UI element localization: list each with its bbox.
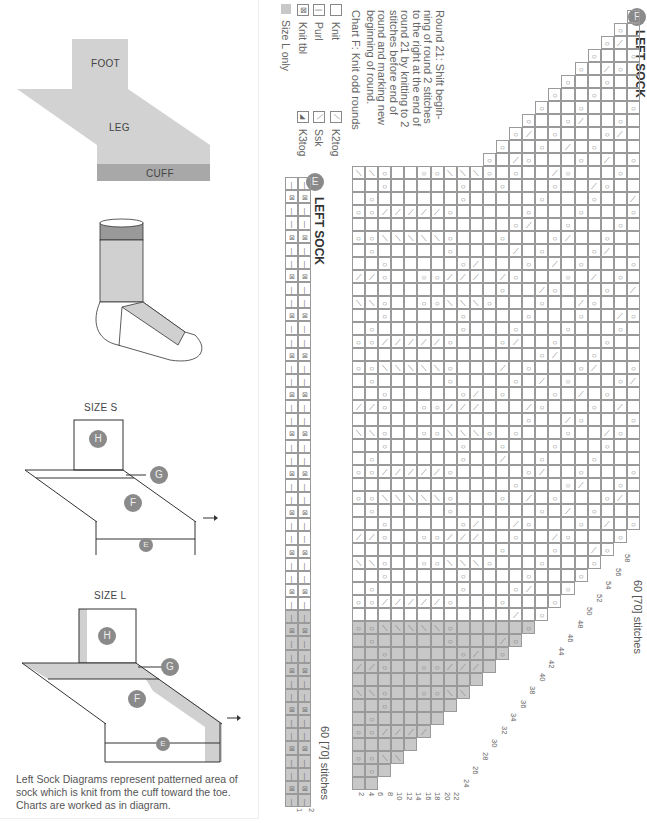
chart-f-cell: ⟋ xyxy=(404,335,417,348)
chart-f-cell: ○ xyxy=(444,374,457,387)
chart-e-cell: | xyxy=(285,335,298,348)
chart-f-cell xyxy=(365,179,378,192)
chart-f-cell xyxy=(444,439,457,452)
chart-f-cell: ○ xyxy=(457,192,470,205)
chart-f-cell: ⟋ xyxy=(588,270,601,283)
chart-f-cell xyxy=(470,283,483,296)
legend-k2tog: K2tog xyxy=(330,129,343,156)
chart-f-cell xyxy=(483,595,496,608)
chart-f-cell: ○ xyxy=(509,270,522,283)
chart-f-cell xyxy=(535,114,548,127)
chart-f-cell xyxy=(470,673,483,686)
chart-f-cell xyxy=(509,140,522,153)
chart-f-cell xyxy=(627,23,640,36)
chart-f-cell xyxy=(561,387,574,400)
chart-f-cell xyxy=(548,101,561,114)
chart-f-cell xyxy=(588,439,601,452)
chart-f-cell xyxy=(404,296,417,309)
chart-f-cell: ⟋ xyxy=(588,361,601,374)
chart-f-cell xyxy=(588,231,601,244)
chart-f-cell: ○ xyxy=(588,140,601,153)
chart-f-cell: ○ xyxy=(444,504,457,517)
chart-f-cell: ⟋ xyxy=(431,205,444,218)
chart-f-cell xyxy=(496,569,509,582)
chart-f-cell xyxy=(496,374,509,387)
chart-f-cell: ○ xyxy=(457,309,470,322)
chart-f-cell xyxy=(548,140,561,153)
chart-f-cell xyxy=(378,504,391,517)
chart-f-cell: ⟍ xyxy=(391,491,404,504)
chart-f-cell xyxy=(522,478,535,491)
size-l-swatch-icon xyxy=(281,4,291,14)
chart-f-cell xyxy=(483,621,496,634)
chart-f-cell: ⟋ xyxy=(575,478,588,491)
chart-f-cell xyxy=(444,517,457,530)
chart-e-cell: | xyxy=(285,400,298,413)
chart-f-cell xyxy=(588,127,601,140)
chart-f-cell xyxy=(601,530,614,543)
chart-f-cell: ○ xyxy=(509,218,522,231)
chart-f-cell xyxy=(535,257,548,270)
chart-e-cell: ⊠ xyxy=(298,781,311,794)
chart-f-cell: ○ xyxy=(378,530,391,543)
chart-f-cell xyxy=(561,257,574,270)
chart-f-cell xyxy=(627,439,640,452)
legend-knit-tbl: Knit tbl xyxy=(297,22,310,54)
chart-f-cell xyxy=(483,647,496,660)
legend-k3tog: K3tog xyxy=(297,129,310,156)
chart-f-row-number: 46 xyxy=(566,634,575,642)
chart-f-cell xyxy=(575,127,588,140)
chart-f-cell: ⟋ xyxy=(575,387,588,400)
chart-f-cell: ○ xyxy=(378,257,391,270)
chart-f-cell xyxy=(561,127,574,140)
chart-f-cell: ⟍ xyxy=(457,426,470,439)
chart-f-cell: ⟋ xyxy=(614,36,627,49)
chart-f-cell xyxy=(561,335,574,348)
chart-f-cell xyxy=(561,400,574,413)
chart-f-row-number: 22 xyxy=(452,792,461,800)
legend: Knit |Purl ⊠Knit tbl Size L only ⟋K2tog … xyxy=(280,4,342,156)
chart-e-cell: | xyxy=(285,715,298,728)
chart-f-cell xyxy=(522,322,535,335)
purl-swatch-icon: | xyxy=(313,4,325,16)
chart-f-cell: ○ xyxy=(352,465,365,478)
chart-f-cell: ⟋ xyxy=(417,335,430,348)
chart-f-cell xyxy=(588,387,601,400)
chart-f-cell xyxy=(391,530,404,543)
chart-f-cell xyxy=(548,465,561,478)
chart-f-cell: ⟋ xyxy=(496,361,509,374)
chart-f-cell: ○ xyxy=(352,621,365,634)
chart-f-row-number: 38 xyxy=(528,686,537,694)
chart-f-cell: ○ xyxy=(457,569,470,582)
chart-f-cell: ○ xyxy=(614,62,627,75)
leg-label: LEG xyxy=(109,122,130,133)
chart-e-cell: ⊠ xyxy=(285,781,298,794)
chart-f-row-number: 12 xyxy=(405,792,414,800)
chart-f-cell xyxy=(575,374,588,387)
chart-f-cell xyxy=(561,205,574,218)
chart-f-cell xyxy=(601,361,614,374)
chart-f-cell xyxy=(431,634,444,647)
chart-f-cell: ○ xyxy=(548,127,561,140)
chart-f-cell: ○ xyxy=(614,426,627,439)
chart-e-cell: ⊠ xyxy=(298,308,311,321)
chart-f-cell: ⟋ xyxy=(365,270,378,283)
chart-f-grid: ⟍○○⟋⟍○○⟋⟍○○⟋⟍○○⟋⟍○○⟍○○○○⟋⟍○○○○⟋⟍○○○○⟋⟍○○… xyxy=(352,10,640,790)
chart-f-cell xyxy=(483,400,496,413)
chart-f-cell xyxy=(601,218,614,231)
chart-e-cell: ⊠ xyxy=(285,584,298,597)
chart-f-cell xyxy=(417,569,430,582)
chart-f-cell xyxy=(417,348,430,361)
chart-f-cell xyxy=(535,439,548,452)
chart-f-cell: ⟍ xyxy=(391,621,404,634)
chart-e-cell: | xyxy=(285,755,298,768)
chart-f-cell xyxy=(378,283,391,296)
chart-e-cell: | xyxy=(285,440,298,453)
chart-f-cell: ○ xyxy=(601,127,614,140)
chart-f-cell: ○ xyxy=(575,101,588,114)
chart-f-cell xyxy=(391,647,404,660)
chart-f-cell: ⟋ xyxy=(601,426,614,439)
chart-f-cell: ○ xyxy=(509,127,522,140)
chart-f-cell xyxy=(614,387,627,400)
chart-f-cell: ⟍ xyxy=(404,621,417,634)
